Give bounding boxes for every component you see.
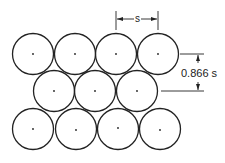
center-dot <box>136 90 138 92</box>
packing-diagram <box>0 0 225 163</box>
circle <box>140 109 181 150</box>
row-1 <box>13 34 179 75</box>
center-dot <box>117 127 119 129</box>
arrow-up-icon <box>196 55 200 61</box>
center-dot <box>157 53 159 55</box>
center-dot <box>115 53 117 55</box>
row-2 <box>34 71 158 112</box>
center-dot <box>32 128 34 130</box>
arrow-down-icon <box>196 84 200 90</box>
circle <box>56 109 97 150</box>
center-dot <box>75 129 77 131</box>
spacing-label: s <box>134 13 141 24</box>
center-dot <box>53 90 55 92</box>
row-spacing-label: 0.866 s <box>181 67 217 79</box>
center-dot <box>94 90 96 92</box>
center-dot <box>74 53 76 55</box>
circle <box>98 109 139 150</box>
center-dot <box>32 53 34 55</box>
row-3 <box>13 109 181 150</box>
center-dot <box>159 129 161 131</box>
arrow-right-icon <box>151 17 157 21</box>
arrow-left-icon <box>117 17 123 21</box>
